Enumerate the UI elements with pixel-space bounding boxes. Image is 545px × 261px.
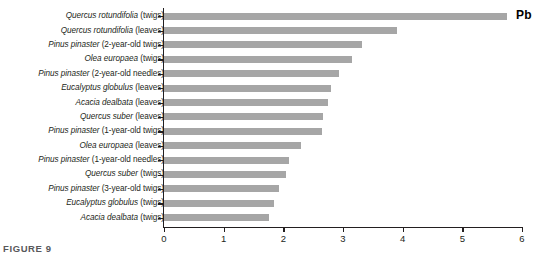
bar-row: Quercus suber (twigs) <box>0 167 545 181</box>
bar-track <box>164 81 331 95</box>
bar-track <box>164 182 279 196</box>
plant-part: (2-year-old twigs) <box>102 40 164 49</box>
plant-part: (3-year-old twigs) <box>102 184 164 193</box>
bar-category-label: Pinus pinaster (1-year-old needles) <box>0 155 164 165</box>
bar-track <box>164 139 301 153</box>
bar-track <box>164 167 286 181</box>
x-axis-tick-label: 6 <box>510 233 534 244</box>
bar <box>164 56 352 63</box>
species-name: Acacia dealbata <box>76 98 134 107</box>
y-axis-tick <box>158 146 163 147</box>
species-name: Quercus rotundifolia <box>66 11 138 20</box>
species-name: Pinus pinaster <box>48 126 99 135</box>
species-name: Olea europaea <box>84 54 138 63</box>
bar-track <box>164 196 274 210</box>
bar-row: Eucalyptus globulus (twigs) <box>0 196 545 210</box>
bar <box>164 41 362 48</box>
species-name: Pinus pinaster <box>38 69 89 78</box>
x-axis-tick <box>462 228 463 232</box>
bar-category-label: Eucalyptus globulus (twigs) <box>0 198 164 208</box>
bar-row: Pinus pinaster (2-year-old needles) <box>0 67 545 81</box>
x-axis-tick-label: 3 <box>331 233 355 244</box>
species-name: Pinus pinaster <box>48 40 99 49</box>
x-axis-tick <box>224 228 225 232</box>
bar-row: Quercus suber (leaves) <box>0 110 545 124</box>
species-name: Quercus suber <box>85 169 138 178</box>
y-axis-tick <box>158 103 163 104</box>
bar-track <box>164 67 339 81</box>
bar-chart: Quercus rotundifolia (twigs)Quercus rotu… <box>0 0 545 236</box>
bar <box>164 27 397 34</box>
x-axis-tick-label: 5 <box>450 233 474 244</box>
y-axis-tick <box>158 218 163 219</box>
bar-category-label: Acacia dealbata (leaves) <box>0 98 164 108</box>
bar <box>164 13 507 20</box>
bar-row: Quercus rotundifolia (leaves) <box>0 23 545 37</box>
bar-row: Acacia dealbata (twigs) <box>0 210 545 224</box>
y-axis-tick <box>158 74 163 75</box>
bar-row: Pinus pinaster (1-year-old twigs) <box>0 124 545 138</box>
x-axis-tick <box>164 228 165 232</box>
species-name: Acacia dealbata <box>80 213 138 222</box>
bar-category-label: Quercus rotundifolia (twigs) <box>0 11 164 21</box>
bar-category-label: Pinus pinaster (1-year-old twigs) <box>0 126 164 136</box>
y-axis-tick <box>158 31 163 32</box>
species-name: Quercus suber <box>80 112 133 121</box>
plant-part: (1-year-old needles) <box>92 155 164 164</box>
bar-row: Acacia dealbata (leaves) <box>0 95 545 109</box>
species-name: Eucalyptus globulus <box>61 83 133 92</box>
bar <box>164 214 269 221</box>
bar-category-label: Pinus pinaster (2-year-old twigs) <box>0 40 164 50</box>
bar <box>164 157 289 164</box>
y-axis-tick <box>158 117 163 118</box>
y-axis-tick <box>158 203 163 204</box>
y-axis-tick <box>158 59 163 60</box>
bar-row: Eucalyptus globulus (leaves) <box>0 81 545 95</box>
bar-category-label: Pinus pinaster (3-year-old twigs) <box>0 184 164 194</box>
bar <box>164 200 274 207</box>
bar <box>164 142 301 149</box>
bar-category-label: Olea europaea (leaves) <box>0 141 164 151</box>
plant-part: (1-year-old twigs) <box>102 126 164 135</box>
y-axis-tick <box>158 16 163 17</box>
bar-category-label: Pinus pinaster (2-year-old needles) <box>0 69 164 79</box>
x-axis-tick <box>343 228 344 232</box>
bar-row: Pinus pinaster (1-year-old needles) <box>0 153 545 167</box>
bar-track <box>164 95 328 109</box>
bar <box>164 128 322 135</box>
species-name: Eucalyptus globulus <box>66 198 138 207</box>
series-label-pb: Pb <box>516 8 532 22</box>
x-axis-tick <box>283 228 284 232</box>
bar-row: Pinus pinaster (3-year-old twigs) <box>0 182 545 196</box>
bar-track <box>164 124 322 138</box>
plant-part: (2-year-old needles) <box>92 69 164 78</box>
bar-track <box>164 9 507 23</box>
bar-category-label: Eucalyptus globulus (leaves) <box>0 83 164 93</box>
bar-row: Pinus pinaster (2-year-old twigs) <box>0 38 545 52</box>
y-axis-tick <box>158 45 163 46</box>
bar <box>164 85 331 92</box>
bar <box>164 185 279 192</box>
bar-category-label: Acacia dealbata (twigs) <box>0 213 164 223</box>
bar-rows: Quercus rotundifolia (twigs)Quercus rotu… <box>0 9 545 225</box>
y-axis-tick <box>158 160 163 161</box>
x-axis-tick-label: 2 <box>271 233 295 244</box>
y-axis-line <box>163 8 164 227</box>
species-name: Pinus pinaster <box>48 184 99 193</box>
bar-category-label: Quercus suber (leaves) <box>0 112 164 122</box>
y-axis-tick <box>158 131 163 132</box>
x-axis-tick-label: 4 <box>391 233 415 244</box>
bar-row: Quercus rotundifolia (twigs) <box>0 9 545 23</box>
figure-caption: FIGURE 9 <box>3 243 52 254</box>
y-axis-tick <box>158 88 163 89</box>
bar-track <box>164 52 352 66</box>
bar-category-label: Quercus rotundifolia (leaves) <box>0 26 164 36</box>
bar-track <box>164 23 397 37</box>
bar-track <box>164 110 323 124</box>
bar <box>164 70 339 77</box>
y-axis-tick <box>158 175 163 176</box>
bar-track <box>164 210 269 224</box>
bar-row: Olea europaea (leaves) <box>0 139 545 153</box>
figure-container: Quercus rotundifolia (twigs)Quercus rotu… <box>0 0 545 261</box>
bar <box>164 171 286 178</box>
